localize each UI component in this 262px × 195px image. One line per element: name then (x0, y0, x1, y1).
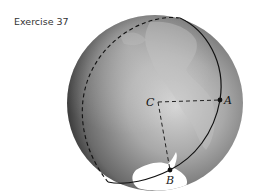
globe (67, 15, 243, 191)
label-C: C (146, 96, 155, 109)
label-B: B (165, 174, 174, 187)
label-A: A (223, 94, 232, 107)
point-A-dot (218, 98, 223, 103)
globe-diagram: C A B (0, 0, 262, 195)
point-B-dot (168, 168, 173, 173)
